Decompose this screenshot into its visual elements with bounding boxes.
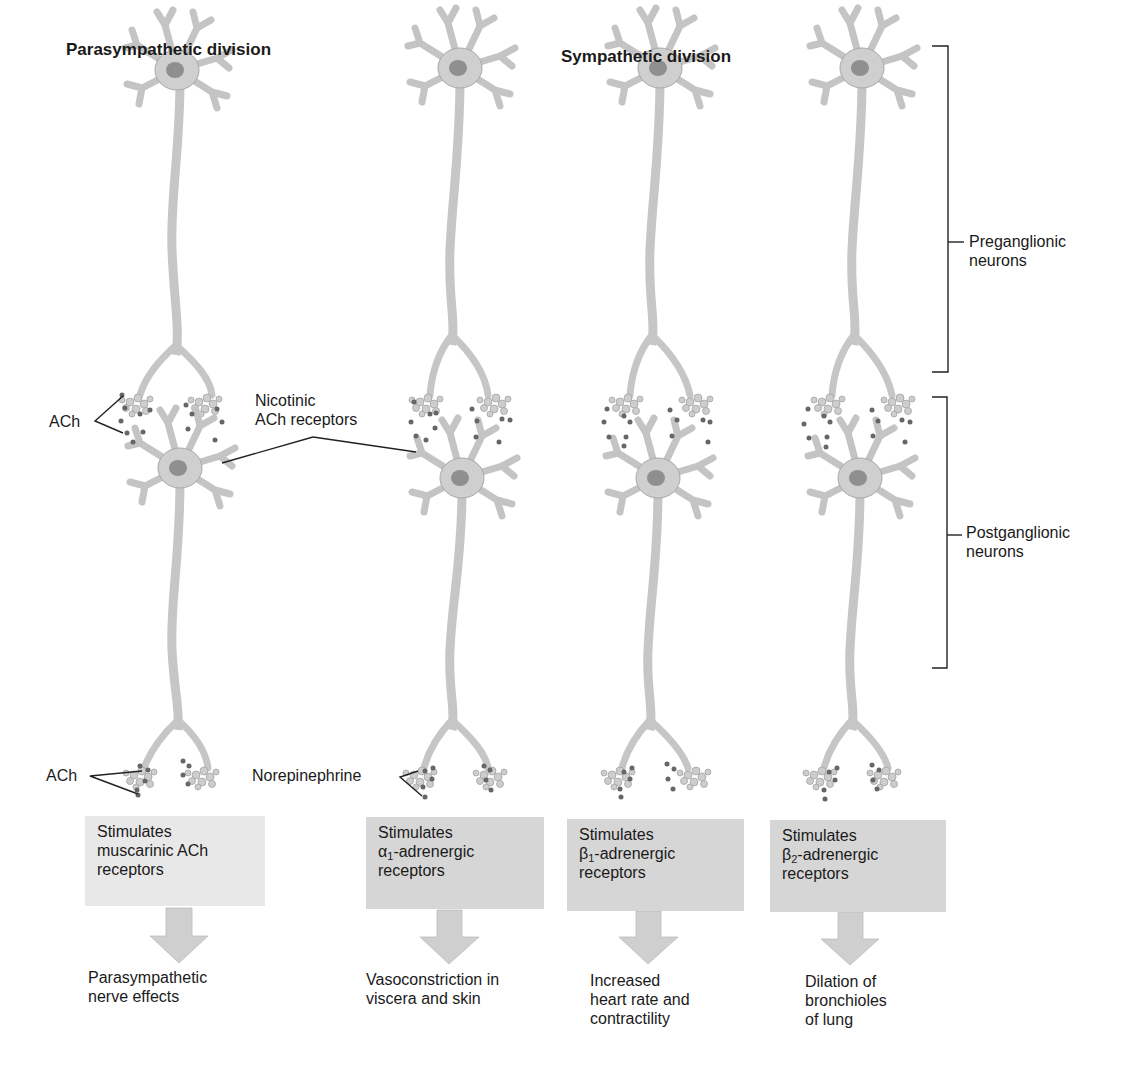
- nicotinic-receptors-label: Nicotinic ACh receptors: [255, 391, 357, 429]
- ach-ganglion-leader: [95, 396, 123, 433]
- postganglionic-neuron-beta2: [803, 418, 915, 790]
- preganglionic-label: Preganglionic neurons: [969, 232, 1066, 270]
- postganglionic-neuron-parasympathetic: [123, 408, 235, 790]
- arrow-alpha1: [420, 910, 479, 964]
- arrow-beta2: [821, 912, 879, 965]
- brackets: [932, 46, 964, 668]
- receptor-box-beta2: Stimulates β2-adrenergic receptors: [770, 820, 946, 912]
- effect-arrows: [150, 908, 879, 965]
- ach-ganglion-label: ACh: [49, 412, 80, 431]
- ach-dots-ganglion: [119, 393, 913, 450]
- nicotinic-leader-right: [313, 437, 416, 452]
- receptor-box-alpha1: Stimulates α1-adrenergic receptors: [366, 817, 544, 909]
- arrow-parasympathetic: [150, 908, 208, 963]
- postganglionic-neuron-beta1: [601, 418, 713, 790]
- ach-effector-label: ACh: [46, 766, 77, 785]
- preganglionic-neuron-parasympathetic: [119, 10, 232, 417]
- postganglionic-label: Postganglionic neurons: [966, 523, 1070, 561]
- preganglionic-neuron-beta2: [810, 8, 917, 417]
- effect-parasympathetic: Parasympathetic nerve effects: [88, 968, 207, 1006]
- arrow-beta1: [619, 911, 678, 964]
- postganglionic-neuron-alpha1: [403, 418, 517, 790]
- effect-vasoconstriction: Vasoconstriction in viscera and skin: [366, 970, 499, 1008]
- preganglionic-neuron-alpha1: [408, 8, 515, 417]
- sympathetic-heading: Sympathetic division: [561, 47, 731, 67]
- norepinephrine-label: Norepinephrine: [252, 766, 361, 785]
- receptor-box-beta1: Stimulates β1-adrenergic receptors: [567, 819, 744, 911]
- effect-heart-rate: Increased heart rate and contractility: [590, 971, 690, 1028]
- postganglionic-bracket: [932, 397, 947, 668]
- neurotransmitter-dots-effector: [135, 759, 882, 802]
- effect-bronchiole-dilation: Dilation of bronchioles of lung: [805, 972, 887, 1029]
- receptor-box-muscarinic: Stimulates muscarinic ACh receptors: [85, 816, 265, 906]
- preganglionic-bracket: [932, 46, 948, 372]
- preganglionic-neuron-beta1: [608, 8, 715, 417]
- parasympathetic-heading: Parasympathetic division: [66, 40, 271, 60]
